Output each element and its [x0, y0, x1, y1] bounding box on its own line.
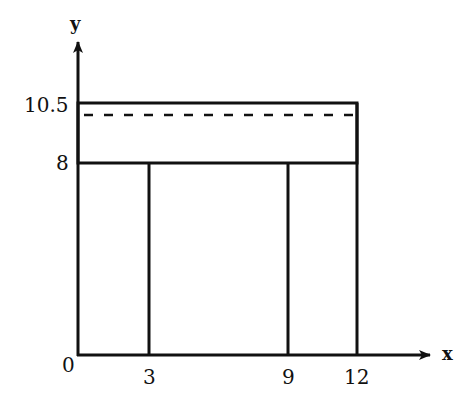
- y-axis-label: y: [69, 13, 81, 34]
- diagram-canvas: y x 0 3 9 12 8 10.5: [0, 0, 476, 409]
- x-axis-label: x: [442, 343, 453, 364]
- top-band: [78, 103, 357, 163]
- tick-label-x-3: 3: [143, 365, 156, 389]
- tick-label-y-10-5: 10.5: [24, 93, 69, 117]
- origin-label: 0: [62, 353, 75, 377]
- tick-label-x-12: 12: [344, 365, 369, 389]
- tick-label-y-8: 8: [56, 151, 69, 175]
- tick-label-x-9: 9: [282, 365, 295, 389]
